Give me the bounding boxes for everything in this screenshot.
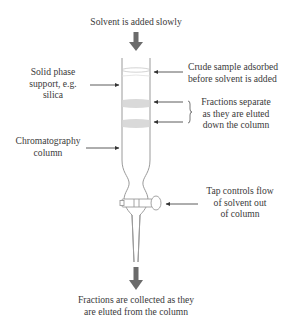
fractions-brace bbox=[188, 101, 192, 123]
solvent-in-arrow-icon bbox=[129, 32, 143, 51]
label-fractions-collected: Fractions are collected as they are elut… bbox=[60, 294, 212, 317]
column-body bbox=[122, 58, 150, 262]
label-tap: Tap controls flow of solvent out of colu… bbox=[198, 185, 282, 220]
chromatography-diagram bbox=[0, 0, 300, 327]
fraction-band-1 bbox=[123, 99, 150, 108]
label-crude-sample: Crude sample adsorbed before solvent is … bbox=[188, 61, 278, 84]
label-chromatography-column: Chromatography column bbox=[10, 135, 86, 158]
label-solvent-added: Solvent is added slowly bbox=[80, 16, 192, 28]
sample-layer bbox=[122, 68, 150, 76]
collect-arrow-icon bbox=[129, 267, 143, 290]
fraction-band-2 bbox=[123, 119, 150, 128]
label-fractions-separate: Fractions separate as they are eluted do… bbox=[194, 96, 278, 131]
label-solid-phase: Solid phase support, e.g. silica bbox=[18, 66, 88, 101]
